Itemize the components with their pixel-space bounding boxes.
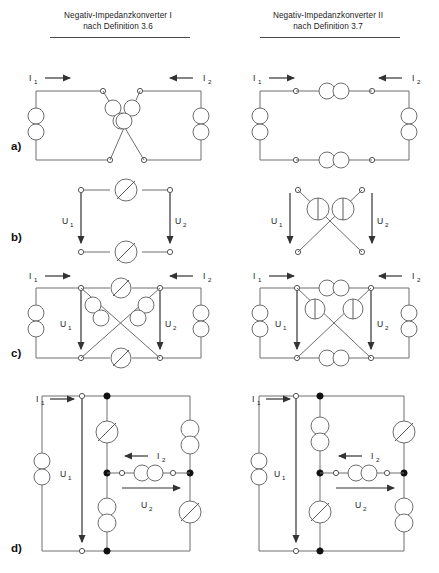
label-i2-d-right: I xyxy=(371,451,373,461)
label-u1-b-right: U xyxy=(271,216,277,226)
label-u2-b-right: U xyxy=(377,216,383,226)
svg-text:1: 1 xyxy=(283,324,287,331)
svg-text:1: 1 xyxy=(34,78,38,85)
svg-text:2: 2 xyxy=(162,456,166,463)
svg-text:1: 1 xyxy=(258,276,262,283)
svg-text:2: 2 xyxy=(385,221,389,228)
svg-text:1: 1 xyxy=(34,276,38,283)
svg-text:1: 1 xyxy=(282,474,286,481)
circuit-a-right: I 1 I 2 xyxy=(252,73,421,168)
svg-text:2: 2 xyxy=(385,324,389,331)
svg-text:2: 2 xyxy=(183,221,187,228)
label-i1-c-right: I xyxy=(253,271,255,281)
label-u2-d-left: U xyxy=(141,500,147,510)
svg-text:1: 1 xyxy=(258,78,262,85)
svg-text:2: 2 xyxy=(376,456,380,463)
svg-text:1: 1 xyxy=(279,221,283,228)
label-u2-b-left: U xyxy=(175,216,181,226)
figure-canvas: Negativ-Impedanzkonverter I nach Definit… xyxy=(0,0,439,573)
label-i1-d-right: I xyxy=(252,394,254,404)
label-i1-a-left: I xyxy=(29,73,31,83)
label-u2-c-left: U xyxy=(165,319,171,329)
svg-text:2: 2 xyxy=(417,276,421,283)
label-i1-c-left: I xyxy=(29,271,31,281)
label-i1-a-right: I xyxy=(253,73,255,83)
circuit-a-left: I 1 I 2 xyxy=(28,73,212,163)
svg-text:1: 1 xyxy=(41,399,45,406)
label-u2-d-right: U xyxy=(355,500,361,510)
svg-text:2: 2 xyxy=(363,505,367,512)
svg-text:2: 2 xyxy=(417,78,421,85)
circuit-b-right: U 1 U 2 xyxy=(271,187,389,254)
label-i2-a-right: I xyxy=(412,73,414,83)
label-u2-c-right: U xyxy=(377,319,383,329)
label-i1-d-left: I xyxy=(36,394,38,404)
svg-text:2: 2 xyxy=(208,78,212,85)
svg-text:2: 2 xyxy=(173,324,177,331)
svg-text:2: 2 xyxy=(149,505,153,512)
svg-text:1: 1 xyxy=(257,399,261,406)
svg-text:2: 2 xyxy=(208,276,212,283)
circuit-diagrams: I 1 I 2 I xyxy=(0,0,439,573)
svg-text:1: 1 xyxy=(70,221,74,228)
label-i2-a-left: I xyxy=(203,73,205,83)
svg-text:1: 1 xyxy=(68,324,72,331)
label-i2-c-left: I xyxy=(203,271,205,281)
label-u1-d-left: U xyxy=(60,469,66,479)
label-u1-b-left: U xyxy=(62,216,68,226)
label-u1-c-left: U xyxy=(60,319,66,329)
circuit-c-right: U 1 U 2 I 1 I 2 xyxy=(252,271,421,366)
label-u1-d-right: U xyxy=(274,469,280,479)
circuit-d-right: U 1 I 1 I 2 U 2 xyxy=(251,393,415,554)
svg-text:1: 1 xyxy=(68,474,72,481)
circuit-c-left: U 1 U 2 I 1 I 2 xyxy=(28,271,212,368)
label-u1-c-right: U xyxy=(275,319,281,329)
label-i2-c-right: I xyxy=(412,271,414,281)
label-i2-d-left: I xyxy=(157,451,159,461)
circuit-b-left: U 1 U 2 xyxy=(62,179,187,263)
circuit-d-left: U 1 I 1 I 2 U 2 xyxy=(34,393,201,554)
